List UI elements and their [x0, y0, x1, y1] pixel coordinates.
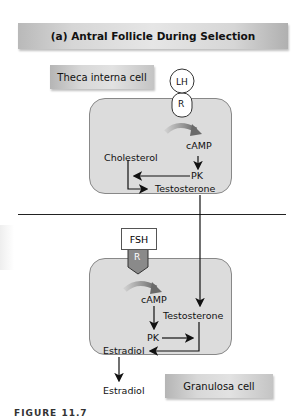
theca-pk: PK — [191, 170, 203, 181]
theca-curved-arrowhead — [190, 124, 202, 136]
fsh-box: FSH — [121, 228, 157, 250]
granulosa-testosterone: Testosterone — [163, 310, 223, 321]
cholesterol: Cholesterol — [104, 152, 158, 163]
fsh-label: FSH — [130, 234, 148, 245]
estradiol-outside: Estradiol — [103, 385, 145, 396]
lh-label: LH — [176, 77, 188, 87]
estradiol-inside: Estradiol — [103, 345, 145, 356]
granulosa-camp: cAMP — [141, 294, 167, 305]
lh-receptor-label: R — [178, 99, 184, 109]
granulosa-curved-arrowhead — [150, 282, 162, 294]
figure-caption: FIGURE 11.7 — [14, 408, 88, 418]
granulosa-pk: PK — [147, 332, 159, 343]
theca-chol-testo-arrow — [128, 160, 146, 189]
fsh-receptor-label: R — [134, 252, 140, 262]
theca-testosterone: Testosterone — [155, 183, 215, 194]
theca-camp: cAMP — [186, 140, 212, 151]
